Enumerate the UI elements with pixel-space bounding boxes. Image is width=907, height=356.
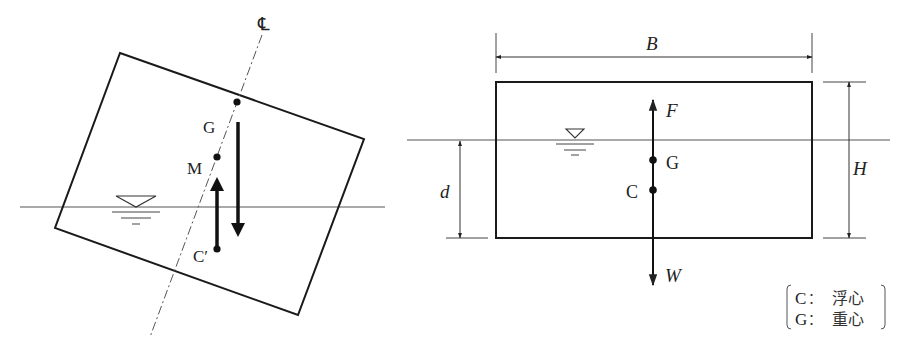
right-figure-upright-body: B H d F W G C xyxy=(407,33,890,329)
left-tilted-hull xyxy=(55,53,364,315)
dimension-H-label: H xyxy=(852,158,868,179)
legend-C-sep: ： xyxy=(808,290,822,306)
right-label-G: G xyxy=(666,153,679,173)
legend-C-meaning: 浮心 xyxy=(832,289,864,308)
dimension-d: d xyxy=(440,141,488,238)
legend-C-symbol: C xyxy=(795,289,806,308)
stability-diagram: ℄ G M C′ B xyxy=(0,0,907,356)
left-label-G: G xyxy=(203,118,215,137)
legend: C ： 浮心 G ： 重心 xyxy=(787,285,885,329)
centerline xyxy=(150,35,262,337)
dimension-B: B xyxy=(496,33,812,73)
dimension-B-label: B xyxy=(646,33,658,54)
left-figure-heeled-body: ℄ G M C′ xyxy=(20,14,385,337)
left-label-C-prime: C′ xyxy=(193,247,208,266)
legend-G-sep: ： xyxy=(808,311,822,327)
legend-G-symbol: G xyxy=(795,310,807,329)
right-point-C xyxy=(649,186,657,194)
dimension-d-label: d xyxy=(440,181,450,202)
left-point-M xyxy=(213,153,220,160)
force-F-label: F xyxy=(665,100,678,121)
dimension-H: H xyxy=(823,82,868,238)
centerline-label: ℄ xyxy=(257,14,270,34)
left-point-G xyxy=(233,98,240,105)
right-water-surface-icon xyxy=(556,129,594,155)
right-label-C: C xyxy=(626,182,638,202)
left-label-M: M xyxy=(187,159,202,178)
right-point-G xyxy=(649,156,657,164)
legend-G-meaning: 重心 xyxy=(832,310,864,329)
force-W-label: W xyxy=(665,265,683,286)
left-water-surface-icon xyxy=(112,196,160,224)
